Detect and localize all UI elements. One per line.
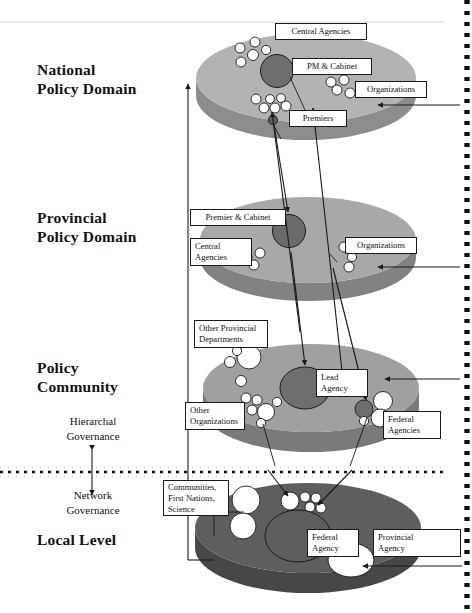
level-title-national: National Policy Domain bbox=[37, 60, 136, 99]
callout-organizations-national[interactable]: Organizations bbox=[355, 81, 427, 98]
callout-federal-agency[interactable]: Federal Agency bbox=[307, 529, 359, 557]
level-title-local: Local Level bbox=[37, 530, 116, 549]
callout-organizations-provincial[interactable]: Organizations bbox=[345, 237, 417, 254]
callout-premiers[interactable]: Premiers bbox=[289, 110, 347, 127]
callout-leader-lines bbox=[214, 77, 367, 536]
callout-central-agencies-provincial[interactable]: Central Agencies bbox=[190, 238, 252, 266]
callout-other-provincial-departments[interactable]: Other Provincial Departments bbox=[194, 320, 268, 348]
callout-premier-cabinet[interactable]: Premier & Cabinet bbox=[190, 209, 286, 226]
level-title-policy-community: Policy Community bbox=[37, 358, 118, 397]
callout-provincial-agency[interactable]: Provincial Agency bbox=[373, 529, 461, 557]
callout-other-organizations[interactable]: Other Organizations bbox=[185, 402, 245, 430]
hub-pm-cabinet bbox=[261, 55, 294, 88]
governance-label-hierarchal: Hierarchal Governance bbox=[38, 414, 148, 444]
level-title-provincial: Provincial Policy Domain bbox=[37, 208, 136, 247]
callout-lead-agency[interactable]: Lead Agency bbox=[316, 369, 368, 397]
callout-central-agencies-national[interactable]: Central Agencies bbox=[275, 23, 367, 40]
governance-label-network: Network Governance bbox=[38, 488, 148, 518]
page-edge-dashed-border bbox=[464, 0, 470, 613]
diagram-canvas: National Policy Domain Provincial Policy… bbox=[0, 0, 472, 613]
callout-communities-first-nations-science[interactable]: Communities, First Nations, Science bbox=[163, 480, 229, 516]
callout-federal-agencies[interactable]: Federal Agencies bbox=[383, 411, 441, 439]
callout-pm-cabinet[interactable]: PM & Cabinet bbox=[292, 58, 372, 75]
